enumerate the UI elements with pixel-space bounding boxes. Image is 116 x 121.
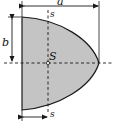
axis-label-top: s bbox=[50, 9, 55, 19]
parabolic-area bbox=[22, 17, 99, 110]
axis-label-bottom: s bbox=[50, 109, 55, 119]
dimension-b-label: b bbox=[2, 36, 9, 49]
centroid-label: S bbox=[49, 50, 57, 63]
parabolic-section-diagram: a b S s s bbox=[0, 0, 116, 121]
dimension-a-label: a bbox=[57, 0, 64, 8]
